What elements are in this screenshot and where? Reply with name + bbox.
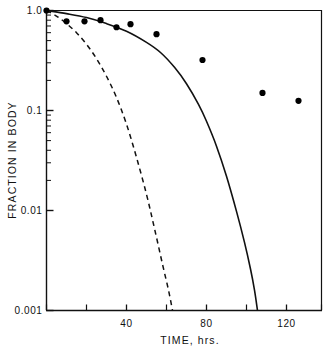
data-point [259,90,265,96]
y-axis-tick-labels: 1.00.10.010.001 [14,5,42,316]
plot-frame [46,10,322,311]
y-tick-label: 1.0 [27,5,43,16]
dashed-model-curve [47,11,173,311]
data-point [295,98,301,104]
y-tick-label: 0.1 [27,105,43,116]
data-point [113,24,119,30]
y-tick-label: 0.001 [14,305,42,316]
data-point [153,31,159,37]
y-axis-title: FRACTION IN BODY [6,101,18,218]
x-axis-title: TIME, hrs. [160,334,219,346]
x-tick-label: 120 [277,318,296,329]
data-point [199,57,205,63]
data-point [81,18,87,24]
data-point [63,18,69,24]
x-axis-tick-labels: 4080120 [120,318,295,329]
y-tick-label: 0.01 [21,205,43,216]
log-scatter-plot: 1.00.10.010.001 4080120 FRACTION IN BODY… [0,0,335,353]
x-tick-label: 80 [200,318,212,329]
data-point [127,21,133,27]
x-axis-ticks [47,305,322,311]
data-point-markers [43,7,301,104]
y-axis-ticks [47,11,54,311]
data-point [43,7,49,13]
figure-container: 1.00.10.010.001 4080120 FRACTION IN BODY… [0,0,335,353]
solid-model-curve [47,11,258,311]
x-tick-label: 40 [120,318,132,329]
data-point [97,17,103,23]
